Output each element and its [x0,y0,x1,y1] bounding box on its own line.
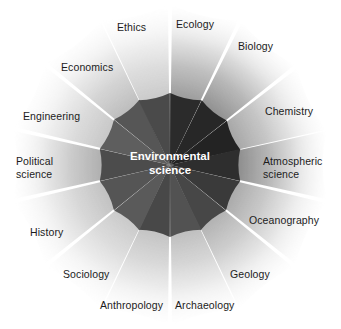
sector-label-geology: Geology [230,268,270,281]
center-label: Environmental science [110,150,230,177]
sector-label-history: History [30,226,63,239]
sector-label-ecology: Ecology [176,18,214,31]
sector-label-ethics: Ethics [117,21,146,34]
sector-label-archaeology: Archaeology [175,299,234,312]
sector-label-engineering: Engineering [23,110,80,123]
sector-label-biology: Biology [238,40,273,53]
radial-diagram: EcologyBiologyChemistryAtmospheric scien… [0,0,341,329]
sector-label-chemistry: Chemistry [265,105,313,118]
sector-label-oceanography: Oceanography [249,214,319,227]
sector-label-anthropology: Anthropology [100,299,163,312]
sector-label-economics: Economics [61,61,113,74]
sector-label-sociology: Sociology [63,268,109,281]
sector-label-political-science: Political science [16,155,53,180]
sector-label-atmospheric-science: Atmospheric science [263,155,322,180]
